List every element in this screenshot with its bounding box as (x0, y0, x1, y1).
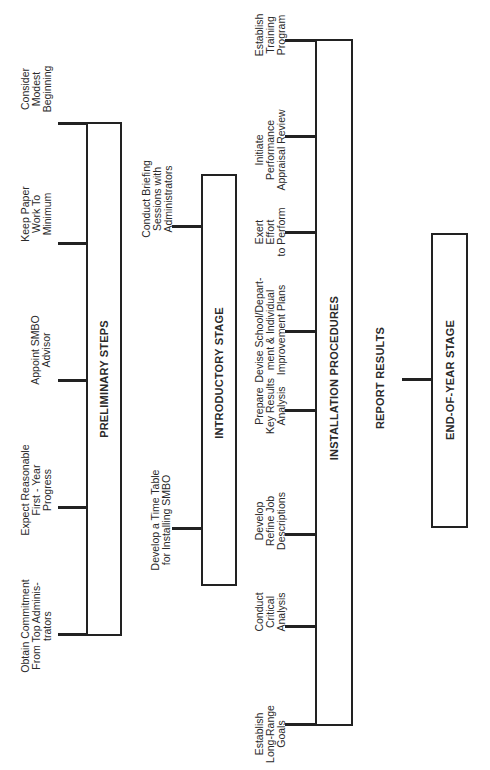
connector (172, 527, 202, 530)
connector (285, 409, 316, 412)
connector (285, 135, 316, 138)
connector (58, 379, 87, 382)
connector (285, 330, 316, 333)
connector (285, 39, 316, 42)
connector (58, 506, 87, 509)
connector (58, 633, 87, 636)
connector (402, 378, 432, 381)
connector (285, 723, 316, 726)
connector (58, 122, 87, 125)
connector (285, 533, 316, 536)
connector (285, 625, 316, 628)
connector (172, 225, 202, 228)
connector (285, 231, 316, 234)
connector (58, 242, 87, 245)
